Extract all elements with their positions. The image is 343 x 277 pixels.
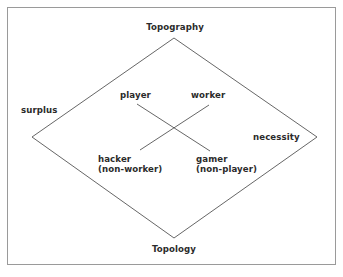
label-topology: Topology	[152, 244, 196, 254]
label-hacker-name: hacker	[98, 154, 162, 164]
label-topography: Topography	[146, 22, 204, 32]
diagram-canvas: Topography Topology surplus necessity pl…	[0, 0, 343, 277]
label-gamer-name: gamer	[196, 154, 257, 164]
label-gamer-qualifier: (non-player)	[196, 164, 257, 174]
label-hacker: hacker (non-worker)	[98, 154, 162, 174]
label-player: player	[120, 90, 151, 100]
label-hacker-qualifier: (non-worker)	[98, 164, 162, 174]
label-necessity: necessity	[253, 132, 300, 142]
label-surplus: surplus	[21, 105, 58, 115]
label-worker: worker	[191, 90, 225, 100]
label-gamer: gamer (non-player)	[196, 154, 257, 174]
